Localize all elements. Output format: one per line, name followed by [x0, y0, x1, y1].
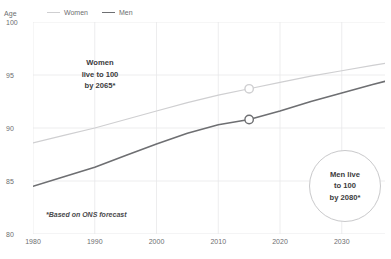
- women-callout-line-3: by 2065*: [48, 80, 152, 92]
- women-callout-line-2: live to 100: [48, 69, 152, 81]
- chart-legend: Women Men: [47, 9, 133, 16]
- men-callout-line-2: to 100: [334, 180, 356, 192]
- data-marker-women: [245, 85, 253, 93]
- women-callout: Women live to 100 by 2065*: [48, 57, 152, 92]
- x-tick-label: 2010: [210, 238, 226, 245]
- men-callout-line-3: by 2080*: [330, 192, 361, 204]
- legend-swatch-men-icon: [102, 12, 115, 13]
- men-callout-line-1: Men live: [330, 169, 360, 181]
- legend-item-men: Men: [102, 9, 133, 16]
- legend-item-women: Women: [47, 9, 88, 16]
- y-tick-label: 100: [6, 19, 30, 26]
- data-marker-men: [245, 115, 253, 123]
- legend-label-women: Women: [64, 9, 88, 16]
- chart-page: Age Women Men 10095908580 19801990200020…: [0, 0, 391, 259]
- y-tick-label: 95: [6, 72, 30, 79]
- legend-label-men: Men: [119, 9, 133, 16]
- men-callout: Men live to 100 by 2080*: [309, 150, 381, 222]
- x-tick-label: 1980: [25, 238, 41, 245]
- y-tick-label: 90: [6, 125, 30, 132]
- y-axis-title: Age: [4, 10, 17, 17]
- legend-swatch-women-icon: [47, 12, 60, 13]
- y-tick-label: 80: [6, 231, 30, 238]
- y-tick-label: 85: [6, 178, 30, 185]
- x-tick-label: 2020: [272, 238, 288, 245]
- women-callout-line-1: Women: [48, 57, 152, 69]
- x-tick-label: 2030: [334, 238, 350, 245]
- x-tick-label: 1990: [87, 238, 103, 245]
- x-tick-label: 2000: [149, 238, 165, 245]
- chart-footnote: *Based on ONS forecast: [46, 211, 127, 218]
